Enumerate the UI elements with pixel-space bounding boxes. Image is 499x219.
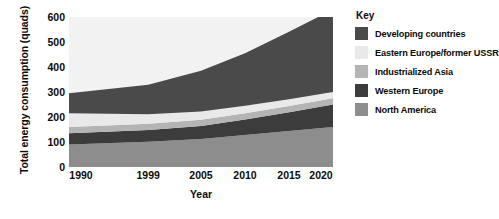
legend-swatch-icon	[355, 46, 368, 59]
y-tick-label: 500	[47, 37, 65, 48]
legend-swatch-icon	[355, 27, 368, 40]
plot-area	[69, 17, 333, 167]
stacked-area-chart	[69, 17, 333, 167]
legend-item[interactable]: North America	[355, 101, 487, 118]
y-axis-tick-labels: 0100200300400500600	[33, 17, 65, 167]
legend-swatch-icon	[355, 84, 368, 97]
x-tick-label: 2020	[309, 170, 332, 181]
x-tick-label: 1990	[69, 170, 92, 181]
x-tick-label: 1999	[137, 170, 160, 181]
y-tick-label: 300	[47, 87, 65, 98]
legend-item[interactable]: Eastern Europe/former USSR	[355, 44, 487, 61]
y-tick-label: 100	[47, 137, 65, 148]
legend-swatch-icon	[355, 65, 368, 78]
chart-legend: Key Developing countriesEastern Europe/f…	[355, 10, 487, 120]
legend-item[interactable]: Western Europe	[355, 82, 487, 99]
legend-title: Key	[356, 10, 487, 21]
x-tick-label: 2010	[233, 170, 256, 181]
x-axis-tick-labels: 199019992005201020152020	[69, 170, 333, 186]
y-tick-label: 400	[47, 62, 65, 73]
legend-items: Developing countriesEastern Europe/forme…	[355, 25, 487, 118]
legend-item-label: Developing countries	[375, 29, 465, 39]
x-tick-label: 2015	[277, 170, 300, 181]
y-tick-label: 0	[59, 162, 65, 173]
x-axis-title: Year	[69, 188, 333, 200]
legend-item-label: Industrialized Asia	[375, 67, 453, 77]
legend-item-label: North America	[375, 105, 436, 115]
legend-item-label: Eastern Europe/former USSR	[375, 48, 499, 58]
y-axis-title: Total energy consumption (quads)	[18, 0, 30, 180]
legend-item[interactable]: Industrialized Asia	[355, 63, 487, 80]
y-tick-label: 600	[47, 12, 65, 23]
x-tick-label: 2005	[189, 170, 212, 181]
legend-swatch-icon	[355, 103, 368, 116]
y-tick-label: 200	[47, 112, 65, 123]
legend-item-label: Western Europe	[375, 86, 443, 96]
legend-item[interactable]: Developing countries	[355, 25, 487, 42]
